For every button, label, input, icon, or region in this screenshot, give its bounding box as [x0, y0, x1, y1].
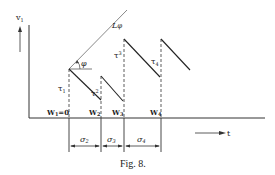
x-axis-label: t	[227, 129, 231, 138]
angle-label: φ	[81, 59, 87, 68]
y-arrowhead-icon	[18, 26, 22, 32]
y-axis-label: v1	[15, 13, 24, 23]
tau-label-4: τ4	[151, 57, 159, 67]
w-label-4: W4	[149, 108, 162, 117]
sigma-label-2: σ2	[80, 135, 89, 144]
w-label-1: W1=0	[46, 108, 69, 117]
l-phi-line	[69, 10, 127, 69]
tau-label-1: τ1	[58, 84, 66, 94]
sigma-label-3: σ3	[107, 135, 116, 144]
l-phi-label: Lφ	[111, 21, 122, 30]
sigma-label-4: σ4	[137, 135, 146, 144]
tau-label-3: τ3	[114, 50, 122, 60]
t-arrowhead-icon	[219, 131, 226, 135]
sawtooth-lines	[69, 39, 190, 101]
sawtooth-diagram: v1 t Lφ φ τ1 τ2 τ3 τ4 W1=0 W2 W3 W4	[0, 0, 275, 175]
figure-caption: Fig. 8.	[120, 158, 146, 169]
w-label-2: W2	[88, 108, 101, 117]
w-label-3: W3	[111, 108, 124, 117]
